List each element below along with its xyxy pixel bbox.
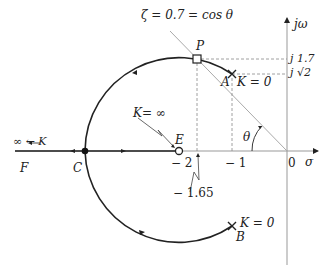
point-P-marker	[193, 55, 201, 63]
B-gain-label: K = 0	[240, 217, 274, 229]
real-axis-label: σ	[305, 156, 313, 168]
tick-j17: j 1.7	[290, 53, 314, 64]
theta-label: θ	[243, 131, 250, 143]
arrow-to-C	[121, 149, 126, 153]
point-C-label: C	[73, 162, 82, 174]
imag-axis-label: jω	[294, 18, 308, 30]
damping-ratio-label: ζ = 0.7 = cos θ	[141, 9, 233, 21]
tick-minus-2: − 2	[171, 157, 193, 169]
arrow-upper	[132, 70, 137, 75]
arrow-to-F	[70, 149, 75, 153]
pole-B-icon	[228, 222, 236, 230]
point-A-label: A	[221, 76, 230, 88]
root-locus-diagram: ζ = 0.7 = cos θ jω j 1.7 j √2 P A K = 0 …	[0, 0, 325, 269]
theta-arc	[252, 126, 262, 151]
tick-minus-165: − 1.65	[173, 187, 214, 199]
diagram-graphics	[0, 0, 325, 269]
E-gain-label: K= ∞	[133, 107, 166, 119]
point-F-label: F	[20, 162, 28, 174]
breakaway-point-C	[82, 148, 89, 155]
point-P-label: P	[196, 40, 204, 52]
tick-jsqrt2: j √2	[290, 67, 311, 78]
damping-ratio-line	[170, 31, 287, 151]
F-gain-label: ∞ ← K	[13, 136, 47, 147]
point-B-label: B	[236, 231, 245, 243]
origin-label: 0	[288, 157, 296, 169]
zero-E-icon	[176, 148, 183, 155]
A-gain-label: K = 0	[237, 76, 271, 88]
point-E-label: E	[175, 134, 184, 146]
tick-minus-1: − 1	[225, 157, 247, 169]
